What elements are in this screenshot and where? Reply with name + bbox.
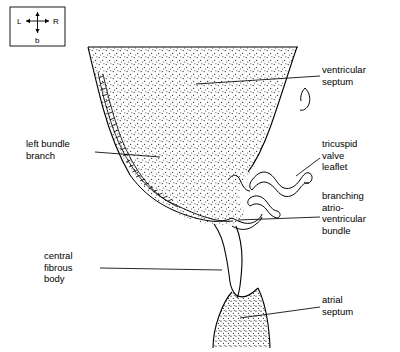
label-ventricular-septum: ventricular septum [322, 64, 366, 87]
tricuspid-valve-leaflet-shape [248, 172, 312, 218]
label-atrial-septum: atrial septum [322, 294, 353, 317]
label-central-fibrous-body: central fibrous body [44, 250, 73, 285]
chordae-flap [300, 88, 310, 110]
leader-central-fibrous-body [100, 268, 222, 270]
label-branching-av-bundle: branching atrio- ventricular bundle [322, 190, 366, 236]
central-fibrous-body-shape [214, 224, 242, 298]
label-left-bundle-branch: left bundle branch [26, 138, 70, 161]
diagram-canvas: L R b [0, 0, 400, 352]
compass-right-letter: R [53, 17, 59, 26]
compass-bottom-letter: b [35, 36, 40, 45]
compass-left-letter: L [17, 17, 22, 26]
orientation-compass: L R b [10, 7, 65, 46]
leader-tricuspid-valve-leaflet [296, 158, 320, 176]
label-tricuspid-valve-leaflet: tricuspid valve leaflet [322, 138, 357, 173]
